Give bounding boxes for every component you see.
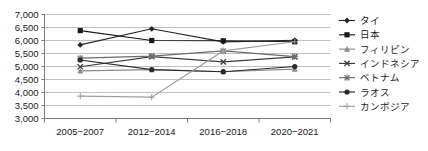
data-point-marker (344, 75, 350, 81)
legend-label: フィリピン (360, 44, 410, 55)
data-point-marker (292, 54, 298, 60)
y-axis-tick-label: 4,500 (15, 74, 39, 85)
data-point-marker (221, 38, 226, 43)
legend-label: ベトナム (360, 72, 400, 83)
legend-item: フィリピン (339, 44, 410, 55)
data-point-marker (221, 69, 226, 74)
series (78, 54, 298, 69)
legend-label: ラオス (360, 87, 390, 98)
legend-item: タイ (339, 15, 380, 26)
legend-item: ベトナム (339, 72, 400, 83)
data-point-marker (78, 57, 83, 62)
series (78, 57, 298, 74)
data-point-marker (77, 42, 83, 48)
series (77, 26, 297, 48)
y-axis-tick-label: 7,000 (15, 9, 39, 20)
series-group (77, 26, 298, 100)
series (78, 28, 298, 44)
data-point-marker (344, 89, 349, 94)
legend-label: 日本 (360, 29, 380, 40)
series (77, 39, 298, 101)
legend-label: インドネシア (360, 58, 420, 69)
y-axis-tick-label: 3,000 (15, 113, 39, 124)
x-axis-category-label: 2005−2007 (56, 126, 104, 137)
legend-item: カンボジア (339, 101, 410, 112)
data-point-marker (149, 94, 155, 100)
data-point-marker (149, 67, 154, 72)
legend-label: タイ (360, 15, 380, 26)
legend-item: 日本 (339, 29, 380, 40)
series-line (80, 42, 295, 97)
data-point-marker (344, 18, 350, 24)
y-axis-tick-label: 3,500 (15, 100, 39, 111)
series-line (80, 57, 295, 67)
line-chart: 7,0006,5006,0005,5005,0004,5004,0003,500… (0, 0, 428, 151)
y-axis-tick-label: 6,500 (15, 22, 39, 33)
legend-item: インドネシア (339, 58, 420, 69)
x-axis-category-labels: 2005−20072012−20142016−20182020−2021 (56, 126, 318, 137)
data-point-marker (77, 93, 83, 99)
x-axis-tick-marks (45, 119, 331, 123)
data-point-marker (149, 38, 154, 43)
data-point-marker (344, 32, 349, 37)
legend-item: ラオス (339, 87, 390, 98)
y-axis-tick-label: 6,000 (15, 35, 39, 46)
y-axis-tick-label: 5,500 (15, 48, 39, 59)
y-axis-tick-labels: 7,0006,5006,0005,5005,0004,5004,0003,500… (15, 9, 39, 124)
series-line (80, 31, 295, 42)
y-axis-tick-label: 5,000 (15, 61, 39, 72)
series-line (80, 29, 295, 45)
x-axis-category-label: 2020−2021 (271, 126, 319, 137)
legend: タイ日本フィリピンインドネシアベトナムラオスカンボジア (339, 15, 420, 112)
data-point-marker (78, 28, 83, 33)
x-axis-category-label: 2016−2018 (199, 126, 247, 137)
y-axis-tick-label: 4,000 (15, 87, 39, 98)
x-axis-category-label: 2012−2014 (128, 126, 176, 137)
data-point-marker (292, 64, 297, 69)
data-point-marker (344, 103, 350, 109)
data-point-marker (149, 53, 155, 59)
chart-svg: 7,0006,5006,0005,5005,0004,5004,0003,500… (0, 0, 428, 151)
legend-label: カンボジア (360, 101, 410, 112)
data-point-marker (149, 26, 155, 32)
series-line (80, 51, 295, 58)
